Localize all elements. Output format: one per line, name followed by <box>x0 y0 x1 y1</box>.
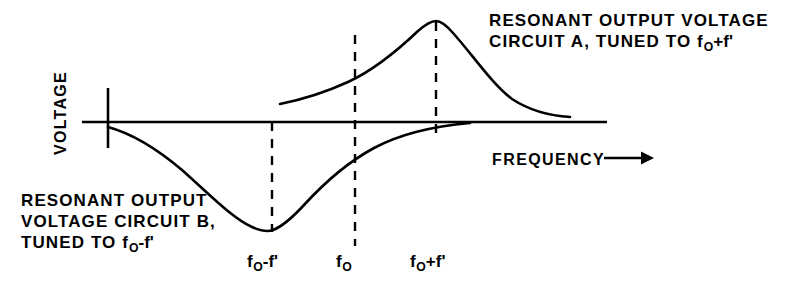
arrow-right-icon <box>641 152 654 165</box>
tick-label-f0-plus-sub: O <box>416 260 426 274</box>
tick-label-f0-minus-sub: O <box>253 260 263 274</box>
annotation-circuit-b-line3-prefix: TUNED TO f <box>21 233 129 252</box>
annotation-circuit-a-line1: RESONANT OUTPUT VOLTAGE <box>489 12 769 29</box>
resonance-curve-figure: VOLTAGE FREQUENCY RESONANT OUTPUT VOLTAG… <box>0 0 806 295</box>
annotation-circuit-b-line3-suffix: -f' <box>139 233 154 252</box>
axis-label-frequency: FREQUENCY <box>492 152 605 168</box>
annotation-circuit-b-line2: VOLTAGE CIRCUIT B, <box>21 213 216 230</box>
tick-label-f0-plus: fO+f' <box>410 252 445 274</box>
annotation-circuit-a-line2-sub: O <box>704 40 714 54</box>
annotation-circuit-b-line3-sub: O <box>129 241 139 255</box>
annotation-circuit-b-line3: TUNED TO fO-f' <box>21 234 216 254</box>
annotation-circuit-a-line2: CIRCUIT A, TUNED TO fO+f' <box>489 33 769 53</box>
axis-label-voltage: VOLTAGE <box>53 58 69 168</box>
annotation-circuit-a-line2-suffix: +f' <box>713 32 733 51</box>
tick-label-f0-minus-suffix: -f' <box>263 252 278 271</box>
annotation-circuit-a-line2-prefix: CIRCUIT A, TUNED TO f <box>489 32 704 51</box>
annotation-circuit-b-line1: RESONANT OUTPUT <box>21 192 216 209</box>
tick-label-f0-minus: fO-f' <box>247 252 278 274</box>
tick-label-f0-plus-suffix: +f' <box>426 252 446 271</box>
annotation-circuit-b: RESONANT OUTPUT VOLTAGE CIRCUIT B, TUNED… <box>21 192 216 254</box>
tick-label-f0-sub: O <box>342 260 352 274</box>
tick-label-f0: fO <box>336 252 352 274</box>
annotation-circuit-a: RESONANT OUTPUT VOLTAGE CIRCUIT A, TUNED… <box>489 12 769 53</box>
